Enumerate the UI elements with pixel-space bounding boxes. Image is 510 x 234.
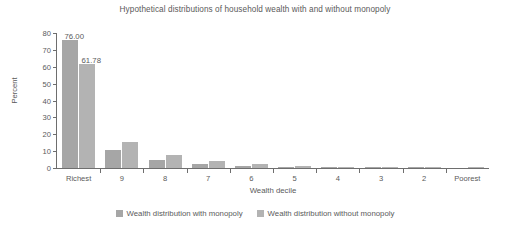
y-axis: Percent 01020304050607080 <box>0 0 57 169</box>
y-axis-tick-label: 50 <box>43 79 51 88</box>
bar <box>235 166 251 168</box>
bar <box>192 164 208 168</box>
bar-value-label: 76.00 <box>65 32 85 41</box>
bar <box>425 167 441 168</box>
x-axis-tick-label: 6 <box>249 174 253 183</box>
bar <box>209 161 225 168</box>
x-axis-tick <box>273 169 274 173</box>
y-axis-tick-label: 80 <box>43 29 51 38</box>
y-axis-tick-label: 70 <box>43 45 51 54</box>
x-axis-tick-label: 5 <box>292 174 296 183</box>
y-axis-tick-label: 20 <box>43 130 51 139</box>
bar <box>122 142 138 168</box>
y-axis-tick-label: 60 <box>43 62 51 71</box>
bar <box>149 160 165 168</box>
legend-swatch-icon <box>116 210 123 217</box>
y-axis-tick-label: 40 <box>43 96 51 105</box>
x-axis-title: Wealth decile <box>57 186 489 195</box>
x-axis-tick-label: 2 <box>422 174 426 183</box>
x-axis-tick-label: Richest <box>66 174 91 183</box>
x-axis-tick-label: Poorest <box>454 174 480 183</box>
x-axis-tick-label: 4 <box>336 174 340 183</box>
bar <box>252 164 268 168</box>
legend-item[interactable]: Wealth distribution without monopoly <box>257 209 395 218</box>
y-axis-tick-label: 0 <box>47 164 51 173</box>
chart-legend: Wealth distribution with monopolyWealth … <box>0 209 510 218</box>
bar <box>278 167 294 168</box>
x-axis-tick <box>143 169 144 173</box>
x-axis-tick-label: 7 <box>206 174 210 183</box>
chart-title: Hypothetical distributions of household … <box>0 5 510 14</box>
x-axis-tick-label: 8 <box>163 174 167 183</box>
x-axis-tick <box>230 169 231 173</box>
bar-value-label: 61.78 <box>82 56 102 65</box>
bar <box>295 166 311 168</box>
bar <box>321 167 337 168</box>
chart-container: Hypothetical distributions of household … <box>0 0 510 234</box>
x-axis-tick <box>403 169 404 173</box>
bar <box>79 64 95 168</box>
x-axis-tick <box>100 169 101 173</box>
legend-label: Wealth distribution without monopoly <box>268 209 395 218</box>
legend-swatch-icon <box>257 210 264 217</box>
legend-item[interactable]: Wealth distribution with monopoly <box>116 209 243 218</box>
bar <box>62 40 78 168</box>
bar <box>166 155 182 168</box>
x-axis-tick <box>316 169 317 173</box>
bar <box>408 167 424 168</box>
bar <box>382 167 398 168</box>
bar <box>468 167 484 168</box>
bar <box>105 150 121 168</box>
x-axis-tick <box>359 169 360 173</box>
y-axis-title: Percent <box>10 61 19 121</box>
plot-area: 76.0061.78 <box>57 33 489 168</box>
y-axis-tick-label: 10 <box>43 147 51 156</box>
bar <box>365 167 381 168</box>
x-axis-tick <box>187 169 188 173</box>
bar <box>338 167 354 168</box>
legend-label: Wealth distribution with monopoly <box>127 209 243 218</box>
y-axis-tick-label: 30 <box>43 113 51 122</box>
x-axis-tick-label: 9 <box>120 174 124 183</box>
x-axis-tick <box>446 169 447 173</box>
x-axis-tick-label: 3 <box>379 174 383 183</box>
